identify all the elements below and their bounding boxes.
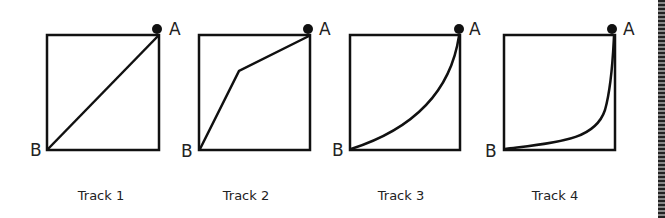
track-2-box — [199, 35, 310, 150]
point-a-label: A — [623, 19, 635, 39]
point-b-label: B — [485, 141, 497, 161]
ball-icon — [607, 24, 617, 34]
track-3-caption: Track 3 — [351, 188, 451, 203]
ball-icon — [454, 24, 464, 34]
track-1-caption: Track 1 — [51, 188, 151, 203]
track-3-box — [350, 35, 460, 150]
page-edge-strip — [658, 0, 665, 218]
point-a-label: A — [319, 19, 331, 39]
track-2-path — [200, 36, 309, 149]
track-2-caption: Track 2 — [196, 188, 296, 203]
track-4-caption: Track 4 — [505, 188, 605, 203]
point-b-label: B — [30, 140, 42, 160]
ball-icon — [152, 24, 162, 34]
point-b-label: B — [181, 141, 193, 161]
track-4-box — [504, 35, 615, 150]
point-b-label: B — [332, 140, 344, 160]
ball-icon — [303, 24, 313, 34]
point-a-label: A — [169, 19, 181, 39]
point-a-label: A — [469, 19, 481, 39]
track-1-path — [48, 36, 158, 149]
tracks-diagram: A B A B A B A B — [0, 0, 665, 218]
track-3-path — [351, 36, 459, 149]
track-4-path — [505, 36, 614, 149]
